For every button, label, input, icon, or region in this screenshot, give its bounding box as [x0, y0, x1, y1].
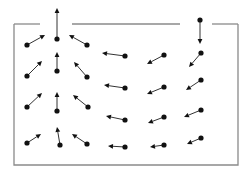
vector-arrow — [184, 107, 204, 117]
vector-arrow — [72, 134, 90, 147]
vector-arrow — [54, 92, 59, 114]
point-dot — [84, 42, 89, 47]
point-dot — [54, 36, 59, 41]
arrowhead-icon — [104, 83, 109, 88]
vector-field-diagram — [0, 0, 250, 173]
arrowhead-icon — [102, 51, 107, 56]
point-dot — [24, 42, 29, 47]
vector-arrow — [186, 77, 204, 90]
container-outline — [14, 24, 238, 165]
arrowhead-icon — [106, 115, 111, 120]
vector-arrow — [69, 35, 90, 48]
vector-arrow — [24, 61, 42, 79]
point-dot — [198, 50, 203, 55]
vector-arrow — [197, 17, 202, 44]
point-dot — [85, 104, 90, 109]
point-dot — [161, 84, 166, 89]
vector-arrow — [73, 95, 91, 110]
vector-arrow — [24, 134, 41, 146]
point-dot — [84, 74, 89, 79]
vector-arrow — [74, 62, 90, 80]
vector-arrow — [104, 83, 128, 90]
point-dot — [161, 52, 166, 57]
vector-arrow — [148, 114, 167, 123]
vector-arrow — [55, 127, 62, 148]
vector-arrow — [108, 144, 128, 150]
point-dot — [198, 77, 203, 82]
vector-arrow — [106, 115, 128, 123]
arrowhead-icon — [55, 8, 60, 13]
vector-arrow — [187, 135, 204, 144]
point-dot — [84, 141, 89, 146]
arrowhead-icon — [55, 127, 60, 132]
container-walls — [14, 24, 238, 165]
point-dot — [24, 140, 29, 145]
point-dot — [54, 108, 59, 113]
vector-arrow — [102, 51, 128, 58]
vector-arrow — [189, 50, 204, 67]
point-dot — [122, 144, 127, 149]
point-dot — [197, 17, 202, 22]
point-dot — [161, 142, 166, 147]
vector-arrow — [147, 52, 167, 64]
vector-arrow — [24, 35, 45, 48]
point-dot — [24, 104, 29, 109]
point-dot — [57, 142, 62, 147]
arrowhead-icon — [55, 52, 60, 57]
vector-arrow — [147, 84, 167, 94]
point-dot — [198, 107, 203, 112]
arrowhead-icon — [35, 134, 41, 139]
point-dot — [198, 135, 203, 140]
point-dot — [122, 85, 127, 90]
point-dot — [54, 68, 59, 73]
arrowhead-icon — [55, 92, 60, 97]
vector-arrows — [24, 8, 203, 150]
arrow-shaft — [107, 54, 125, 56]
vector-arrow — [54, 8, 59, 42]
point-dot — [24, 73, 29, 78]
arrowhead-icon — [186, 85, 191, 90]
arrowhead-icon — [198, 39, 203, 44]
vector-arrow — [150, 142, 167, 148]
arrowhead-icon — [72, 134, 77, 139]
arrowhead-icon — [150, 144, 155, 149]
point-dot — [122, 53, 127, 58]
point-dot — [122, 117, 127, 122]
vector-arrow — [24, 93, 42, 110]
vector-arrow — [54, 52, 59, 74]
point-dot — [161, 114, 166, 119]
arrowhead-icon — [108, 144, 113, 149]
